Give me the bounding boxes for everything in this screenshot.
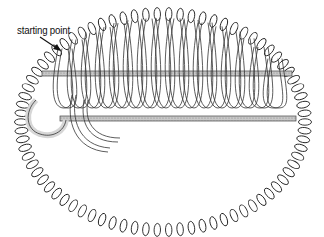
- lower-rod: [60, 116, 296, 121]
- outer-coil: [15, 8, 312, 237]
- tail-ends: [28, 95, 120, 152]
- diagram-figure: starting point: [0, 0, 324, 237]
- stitch-loops: [53, 18, 287, 108]
- arrow-icon: [40, 37, 61, 51]
- starting-point-label: starting point: [17, 24, 70, 36]
